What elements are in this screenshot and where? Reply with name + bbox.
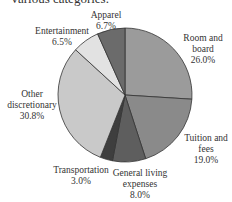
label-text: Apparel — [91, 10, 122, 21]
label-percent: 8.0% — [113, 190, 168, 201]
label-tuition-and-fees: Tuition and fees 19.0% — [184, 133, 228, 166]
label-text: fees — [184, 144, 228, 155]
label-general-living-expenses: General living expenses 8.0% — [113, 168, 168, 201]
label-text: Tuition and — [184, 133, 228, 144]
label-percent: 26.0% — [183, 55, 222, 66]
label-percent: 3.0% — [53, 176, 109, 187]
label-text: Room and — [183, 33, 222, 44]
label-percent: 6.5% — [35, 37, 89, 48]
label-percent: 19.0% — [184, 155, 228, 166]
label-text: discretionary — [7, 100, 57, 111]
label-text: General living — [113, 168, 168, 179]
label-room-and-board: Room and board 26.0% — [183, 33, 222, 66]
label-apparel: Apparel 6.7% — [91, 10, 122, 32]
label-text: board — [183, 44, 222, 55]
label-text: expenses — [113, 179, 168, 190]
label-text: Entertainment — [35, 26, 89, 37]
label-entertainment: Entertainment 6.5% — [35, 26, 89, 48]
label-transportation: Transportation 3.0% — [53, 165, 109, 187]
label-percent: 6.7% — [91, 21, 122, 32]
label-percent: 30.8% — [7, 111, 57, 122]
pie-slice-room-and-board — [125, 28, 192, 99]
label-text: Transportation — [53, 165, 109, 176]
label-other-discretionary: Other discretionary 30.8% — [7, 89, 57, 122]
label-text: Other — [7, 89, 57, 100]
